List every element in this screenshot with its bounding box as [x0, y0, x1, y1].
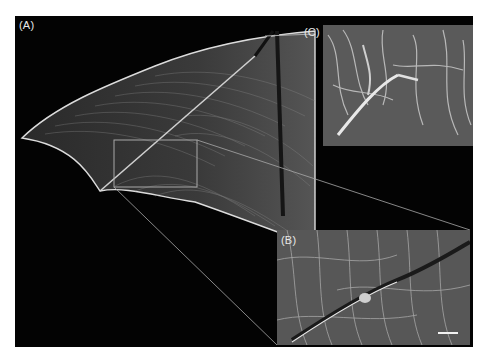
panel-c-micrograph	[323, 25, 473, 146]
panel-label-a: (A)	[19, 19, 34, 31]
scale-bar	[438, 332, 458, 334]
panel-label-b: (B)	[281, 234, 296, 246]
panel-label-c: (C)	[304, 26, 320, 38]
figure: (A) (C)	[15, 16, 473, 347]
panel-b-magnified	[277, 230, 470, 345]
wing-membrane	[22, 31, 315, 246]
